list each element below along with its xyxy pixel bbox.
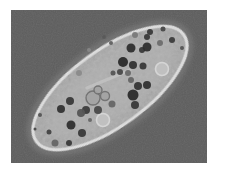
granule [157,40,163,46]
granule [77,109,85,117]
granule [128,77,134,83]
granule [57,105,65,113]
granule [38,113,42,117]
granule [117,69,123,75]
contractile-vacuole [156,63,169,76]
ring-vacuole [94,86,102,94]
granule [134,82,142,90]
ring-vacuole [101,92,110,101]
granule [52,140,59,147]
granule [109,101,116,108]
micrograph-image [0,0,226,175]
granule [143,81,151,89]
granule [67,121,76,130]
granule [169,37,175,43]
contractile-vacuole [97,114,110,127]
granule [66,97,74,105]
granule [109,41,113,45]
granule [125,70,131,76]
granule [94,106,102,114]
granule [128,90,139,101]
granule [34,128,37,131]
granule [78,129,86,137]
granule [87,48,91,52]
granule [127,44,136,53]
granule [143,43,152,52]
granule [76,70,82,76]
granule [161,27,166,32]
granule [129,61,137,69]
granule [132,32,138,38]
granule [180,46,184,50]
granule [88,118,92,122]
granule [131,101,139,109]
granule [66,140,72,146]
granule [47,130,52,135]
granule [147,29,153,35]
granule [118,57,128,67]
micrograph-figure [0,0,226,175]
granule [140,63,147,70]
granule [144,34,150,40]
granule [102,35,106,39]
granule [111,71,116,76]
